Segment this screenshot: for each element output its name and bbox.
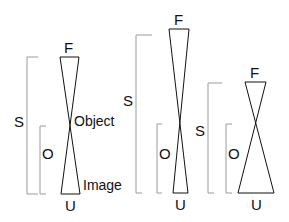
panel-middle (136, 29, 189, 193)
hourglass-shape (238, 82, 274, 193)
panel-left (27, 57, 80, 194)
label-image: Image (83, 178, 122, 192)
s-bracket (208, 83, 222, 193)
panel-right (208, 82, 274, 193)
label-f-middle: F (174, 12, 183, 27)
s-bracket (27, 57, 38, 194)
label-u-right: U (251, 197, 262, 212)
label-f-left: F (64, 40, 73, 55)
optics-diagram (0, 0, 289, 222)
label-o-right: O (228, 146, 240, 161)
label-s-right: S (195, 123, 205, 138)
s-bracket (136, 35, 152, 193)
label-o-left: O (42, 146, 54, 161)
label-s-middle: S (123, 93, 133, 108)
label-o-middle: O (159, 146, 171, 161)
label-s-left: S (14, 114, 24, 129)
label-u-middle: U (175, 197, 186, 212)
label-object: Object (74, 114, 114, 128)
label-f-right: F (250, 65, 259, 80)
label-u-left: U (65, 198, 76, 213)
hourglass-shape (169, 29, 189, 193)
